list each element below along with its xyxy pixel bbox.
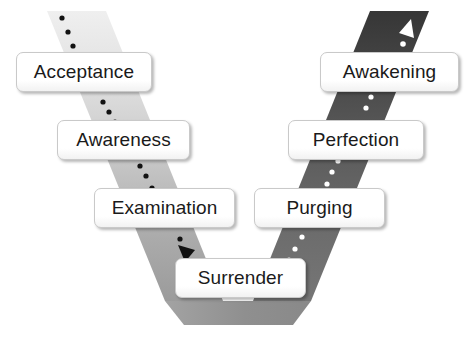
step-label-perfection: Perfection [313,130,400,151]
step-box-perfection[interactable]: Perfection [288,120,424,160]
step-label-awakening: Awakening [343,62,437,83]
bottom-connector-band [165,301,311,325]
step-box-awareness[interactable]: Awareness [57,120,190,160]
diagram-canvas: Acceptance Awareness Examination Surrend… [0,0,476,339]
step-box-awakening[interactable]: Awakening [320,52,459,92]
step-label-awareness: Awareness [76,130,171,151]
step-box-surrender[interactable]: Surrender [175,258,306,298]
step-box-purging[interactable]: Purging [254,188,385,228]
step-box-acceptance[interactable]: Acceptance [16,52,152,92]
step-label-examination: Examination [112,198,218,219]
step-box-examination[interactable]: Examination [94,188,235,228]
step-label-surrender: Surrender [198,268,283,289]
step-label-acceptance: Acceptance [34,62,134,83]
step-label-purging: Purging [286,198,352,219]
